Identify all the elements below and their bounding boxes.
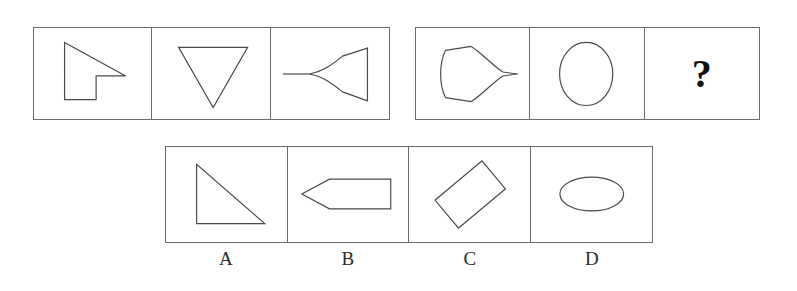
curved-funnel-with-tail-icon [271,28,389,119]
option-label-c: C [409,248,531,270]
first-sequence-group [33,27,390,120]
rounded-blob-with-tail-icon [416,28,529,119]
question-mark-label: ? [692,54,712,94]
option-label-b: B [287,248,409,270]
arrow-flag-polygon-icon [34,28,151,119]
option-cell-b[interactable] [288,147,410,242]
option-label-a: A [165,248,287,270]
tilted-rectangle-icon [409,147,530,242]
option-cell-d[interactable] [531,147,653,242]
sequence-cell-answer[interactable]: ? [645,28,759,119]
answer-options-group [165,146,653,243]
option-label-d: D [531,248,653,270]
left-pointing-arrow-pentagon-icon [288,147,409,242]
right-triangle-icon [166,147,287,242]
second-sequence-group: ? [415,27,760,120]
shape-analogy-puzzle: ? A B C D [0,0,797,291]
option-cell-c[interactable] [409,147,531,242]
sequence-cell-4[interactable] [416,28,530,119]
sequence-cell-2[interactable] [152,28,270,119]
sequence-cell-3[interactable] [271,28,389,119]
downward-triangle-icon [152,28,269,119]
horizontal-ellipse-icon [531,147,653,242]
sequence-cell-1[interactable] [34,28,152,119]
option-labels-row: A B C D [165,248,653,270]
sequence-cell-5[interactable] [530,28,644,119]
option-cell-a[interactable] [166,147,288,242]
vertical-ellipse-icon [530,28,643,119]
